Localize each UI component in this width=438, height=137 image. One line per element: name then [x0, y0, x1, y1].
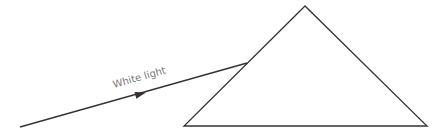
prism-triangle — [184, 6, 427, 126]
arrowhead-icon — [134, 89, 146, 99]
diagram-svg: White light — [0, 0, 438, 137]
diagram-canvas: White light — [0, 0, 438, 137]
ray-label: White light — [112, 65, 167, 90]
